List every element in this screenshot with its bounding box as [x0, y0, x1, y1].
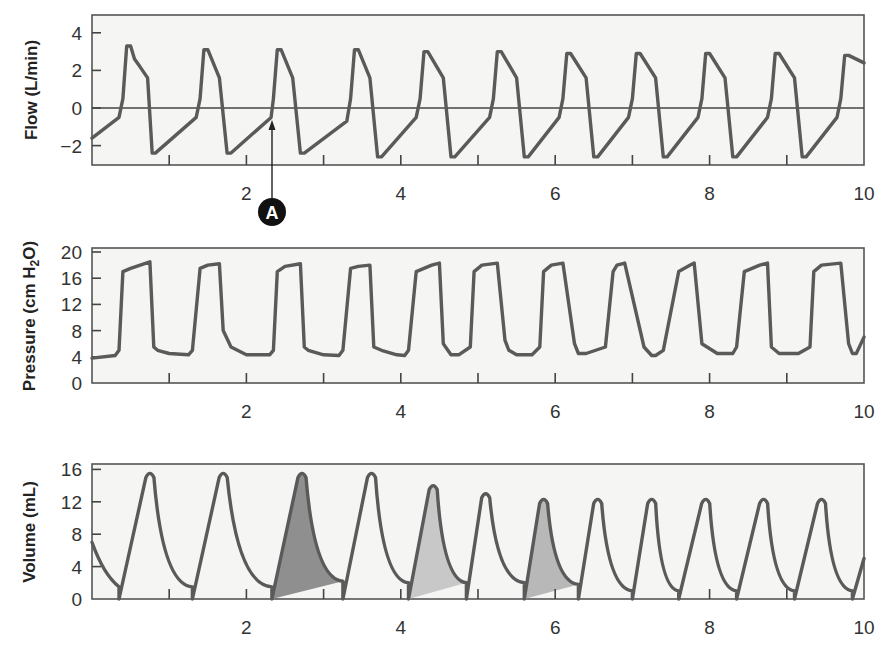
x-tick-label: 2 — [241, 183, 252, 204]
y-tick-label: 12 — [61, 492, 82, 513]
y-tick-label: 2 — [71, 60, 82, 81]
pressure-y-label: Pressure (cm H2O) — [20, 241, 42, 391]
volume-panel: 0481216 246810 Volume (mL) — [20, 459, 875, 638]
y-tick-label: 4 — [71, 23, 82, 44]
x-tick-label: 10 — [853, 617, 874, 638]
y-tick-label: 16 — [61, 268, 82, 289]
x-tick-label: 8 — [704, 183, 715, 204]
y-tick-label: 0 — [71, 373, 82, 394]
x-tick-label: 4 — [396, 401, 407, 422]
y-tick-label: 20 — [61, 242, 82, 263]
x-tick-label: 4 — [396, 183, 407, 204]
y-tick-label: 16 — [61, 459, 82, 480]
x-tick-label: 8 — [704, 617, 715, 638]
flow-y-label: Flow (L/min) — [22, 40, 41, 140]
y-tick-label: 8 — [71, 321, 82, 342]
y-tick-label: 8 — [71, 524, 82, 545]
x-tick-label: 8 — [704, 401, 715, 422]
ventilator-waveform-chart: −2024 246810 Flow (L/min) A 048121620 24… — [0, 0, 887, 645]
pressure-panel: 048121620 246810 Pressure (cm H2O) — [20, 241, 875, 422]
flow-panel: −2024 246810 Flow (L/min) A — [22, 15, 875, 226]
x-tick-label: 6 — [550, 617, 561, 638]
y-tick-label: 4 — [71, 557, 82, 578]
annotation-badge-label: A — [266, 203, 279, 223]
y-tick-label: 0 — [71, 98, 82, 119]
y-tick-label: 0 — [71, 589, 82, 610]
x-tick-label: 6 — [550, 401, 561, 422]
y-tick-label: 12 — [61, 294, 82, 315]
x-tick-label: 2 — [241, 401, 252, 422]
x-tick-label: 10 — [853, 401, 874, 422]
x-tick-label: 10 — [853, 183, 874, 204]
y-tick-label: 4 — [71, 347, 82, 368]
volume-y-label: Volume (mL) — [20, 481, 39, 583]
x-tick-label: 2 — [241, 617, 252, 638]
y-tick-label: −2 — [60, 136, 82, 157]
x-tick-label: 4 — [396, 617, 407, 638]
x-tick-label: 6 — [550, 183, 561, 204]
